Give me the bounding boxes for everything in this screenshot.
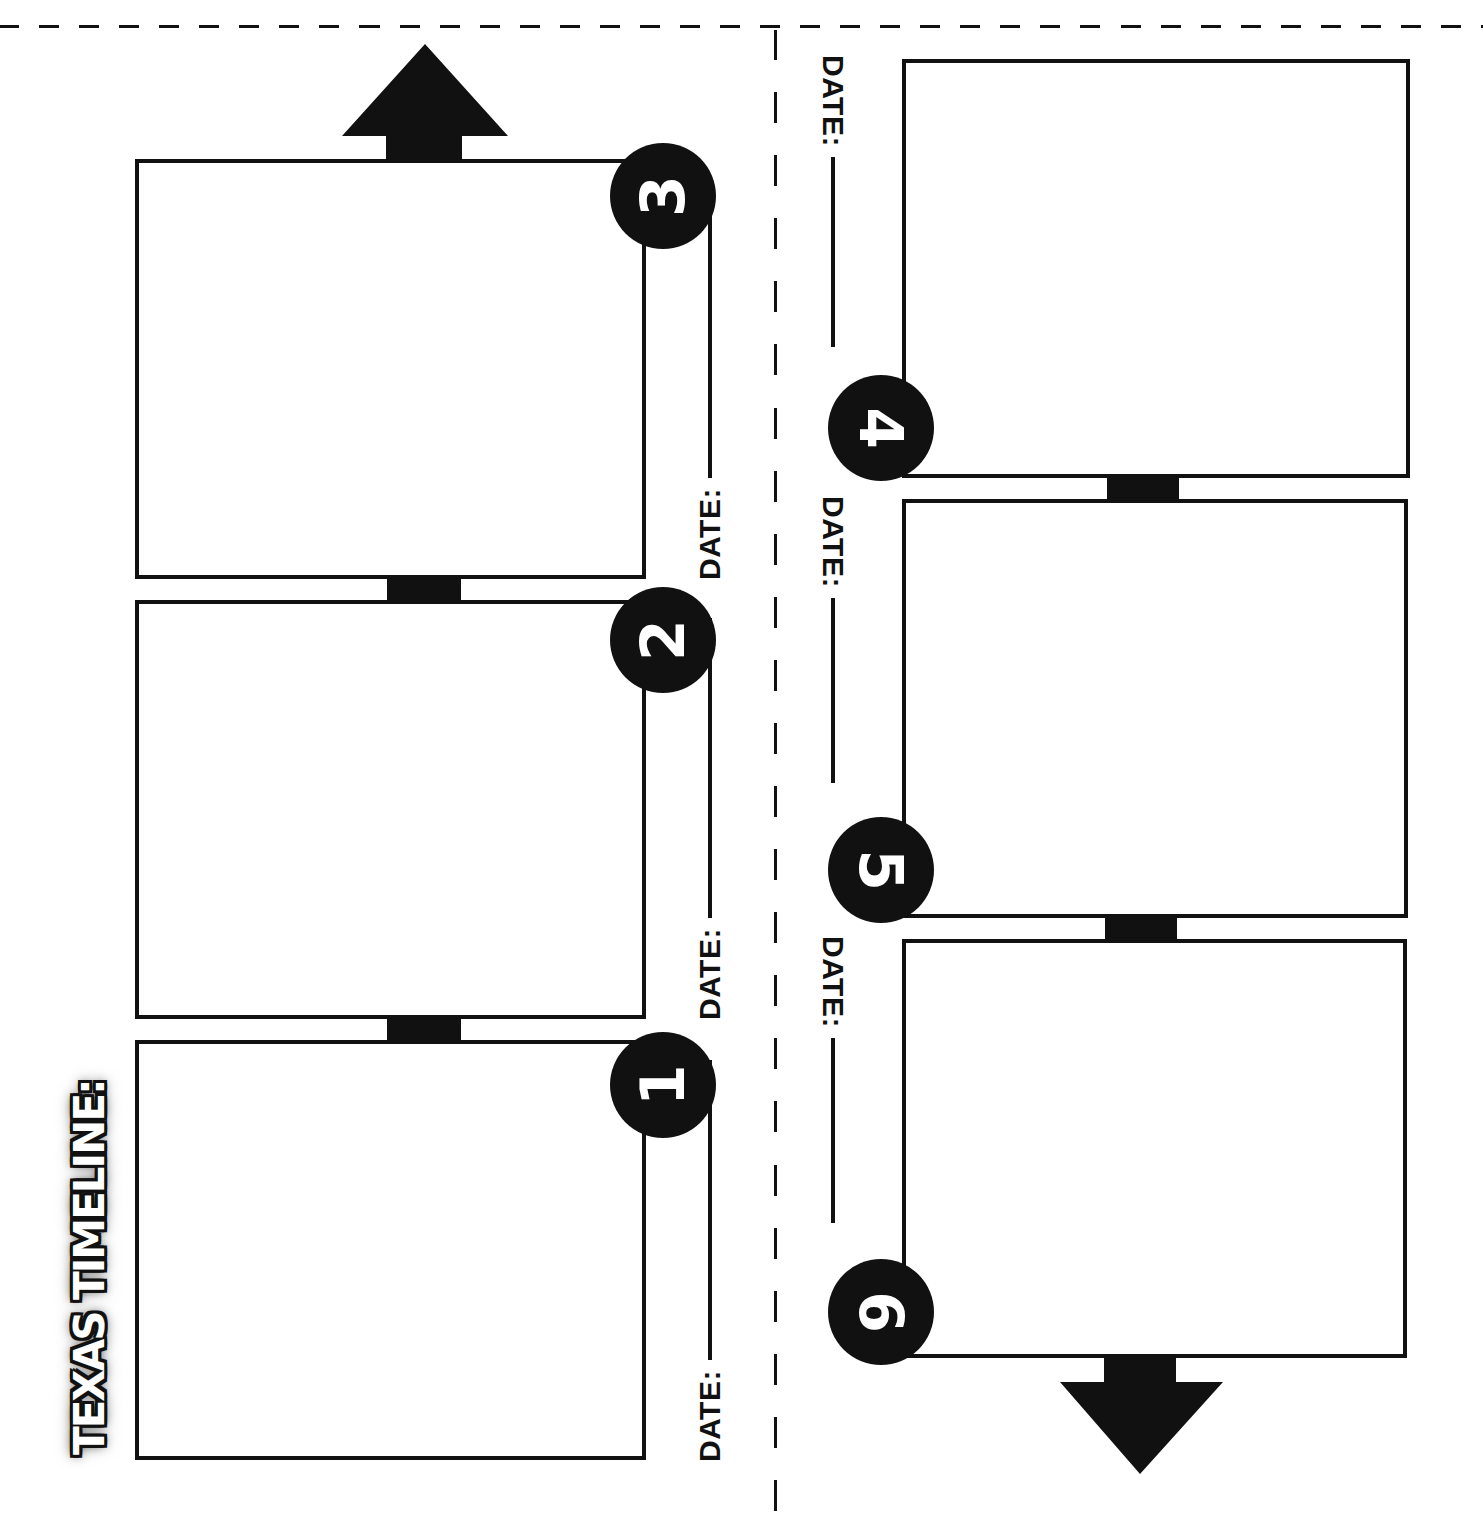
vertical-fold-line <box>774 30 777 1529</box>
connector-2-1 <box>387 1018 461 1042</box>
horizontal-cut-line <box>0 25 1483 28</box>
date-label: DATE: <box>816 55 850 147</box>
date-input-line[interactable] <box>831 157 835 347</box>
date-input-line[interactable] <box>708 618 712 918</box>
date-input-line[interactable] <box>708 1060 712 1360</box>
connector-3-2 <box>387 578 461 602</box>
connector-4-5 <box>1107 477 1179 501</box>
date-input-line[interactable] <box>831 1038 835 1223</box>
date-label: DATE: <box>693 928 727 1020</box>
date-input-line[interactable] <box>831 598 835 783</box>
date-field-3[interactable]: DATE: <box>693 178 727 580</box>
date-field-5[interactable]: DATE: <box>816 496 850 783</box>
date-label: DATE: <box>693 488 727 580</box>
connector-5-6 <box>1105 917 1177 941</box>
up-arrow-icon <box>340 44 510 164</box>
event-box-1[interactable] <box>135 1040 646 1460</box>
date-field-2[interactable]: DATE: <box>693 618 727 1020</box>
event-number-badge-5: 5 <box>828 817 934 923</box>
event-box-5[interactable] <box>902 499 1408 918</box>
event-number-badge-6: 6 <box>828 1259 934 1365</box>
date-input-line[interactable] <box>708 178 712 478</box>
event-box-6[interactable] <box>902 939 1407 1358</box>
event-box-4[interactable] <box>902 59 1410 478</box>
down-arrow-icon <box>1059 1356 1225 1476</box>
worksheet-title: TEXAS TIMELINE: <box>65 1080 114 1455</box>
date-field-4[interactable]: DATE: <box>816 55 850 347</box>
event-number-badge-4: 4 <box>828 375 934 481</box>
date-label: DATE: <box>816 496 850 588</box>
date-label: DATE: <box>693 1370 727 1462</box>
date-field-1[interactable]: DATE: <box>693 1060 727 1462</box>
event-box-3[interactable] <box>135 159 646 579</box>
date-field-6[interactable]: DATE: <box>816 936 850 1223</box>
date-label: DATE: <box>816 936 850 1028</box>
event-box-2[interactable] <box>135 600 646 1019</box>
